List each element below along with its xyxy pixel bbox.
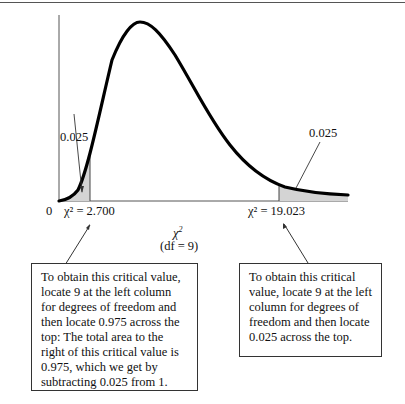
left-note-text: To obtain this critical value, locate 9 … <box>41 270 188 390</box>
right-note-text: To obtain this critical value, locate 9 … <box>249 270 372 345</box>
origin-label: 0 <box>46 204 52 219</box>
right-area-pointer <box>296 142 320 188</box>
right-note-arrow <box>284 224 308 263</box>
df-label: (df = 9) <box>160 239 198 254</box>
right-critical-label: χ² = 19.023 <box>248 204 305 219</box>
axis-sup: 2 <box>179 225 183 234</box>
left-area-label: 0.025 <box>60 130 88 145</box>
left-note-arrowhead <box>86 224 90 230</box>
left-area-pointer <box>74 114 82 192</box>
left-critical-label: χ² = 2.700 <box>64 204 115 219</box>
right-note-box: To obtain this critical value, locate 9 … <box>239 263 382 357</box>
left-note-box: To obtain this critical value, locate 9 … <box>31 263 198 391</box>
right-area-label: 0.025 <box>309 126 337 141</box>
left-note-arrow <box>65 225 90 265</box>
density-curve <box>59 22 348 201</box>
